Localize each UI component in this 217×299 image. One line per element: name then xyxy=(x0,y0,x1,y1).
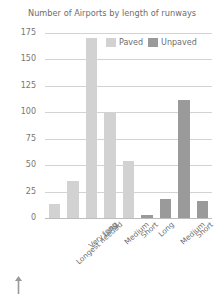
y-axis-tick-175: 175 xyxy=(0,29,36,37)
bar-unpaved-6 xyxy=(160,199,172,218)
x-axis-labels: Longest neededVery longLongMediumShortLo… xyxy=(45,220,217,280)
gridline-0 xyxy=(45,218,212,219)
x-axis-tick-8: Heliports xyxy=(216,220,217,249)
x-axis-tick-5: Long xyxy=(157,220,176,239)
chart-title: Number of Airports by length of runways xyxy=(28,8,196,18)
up-arrow-icon xyxy=(14,275,23,295)
bar-paved-0 xyxy=(49,204,61,218)
plot-area: 1751501251007550250 xyxy=(45,33,212,218)
bar-paved-3 xyxy=(104,113,116,218)
bar-paved-4 xyxy=(123,161,135,218)
bar-unpaved-7 xyxy=(178,100,190,218)
bar-paved-1 xyxy=(67,181,79,218)
gridline-175 xyxy=(45,33,212,34)
bar-paved-2 xyxy=(86,38,98,218)
gridline-150 xyxy=(45,59,212,60)
y-axis-tick-150: 150 xyxy=(0,55,36,63)
y-axis-tick-125: 125 xyxy=(0,82,36,90)
y-axis-tick-100: 100 xyxy=(0,108,36,116)
y-axis-tick-50: 50 xyxy=(0,161,36,169)
bar-unpaved-5 xyxy=(141,215,153,218)
bar-unpaved-8 xyxy=(197,201,209,218)
gridline-125 xyxy=(45,86,212,87)
bar-chart: Number of Airports by length of runways … xyxy=(0,0,217,299)
y-axis-tick-0: 0 xyxy=(0,214,36,222)
y-axis-tick-75: 75 xyxy=(0,135,36,143)
y-axis-tick-25: 25 xyxy=(0,188,36,196)
